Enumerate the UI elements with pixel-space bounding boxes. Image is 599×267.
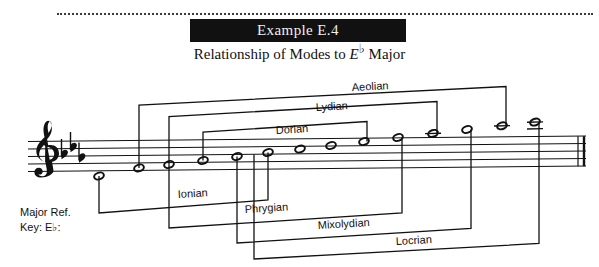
bracket-phrygian <box>169 138 402 229</box>
flat-icon-2 <box>71 132 77 152</box>
note-head <box>425 129 441 138</box>
flat-icon-3 <box>79 143 85 163</box>
mode-label-dorian: Dorian <box>275 122 308 136</box>
example-figure: Example E.4 Relationship of Modes to E♭ … <box>0 0 599 267</box>
mode-label-mixolydian: Mixolydian <box>317 216 370 231</box>
lower-mode-labels: Ionian Phrygian Mixolydian Locrian <box>177 186 432 247</box>
note-head <box>527 117 543 129</box>
upper-mode-labels: Dorian Lydian Aeolian <box>275 79 388 136</box>
key-signature-three-flats <box>62 132 86 163</box>
mode-label-locrian: Locrian <box>395 233 432 247</box>
mode-label-ionian: Ionian <box>177 186 208 200</box>
mode-label-lydian: Lydian <box>315 99 348 113</box>
note-sequence <box>93 117 543 180</box>
music-staff <box>28 136 586 172</box>
note-head <box>494 121 510 130</box>
mode-label-phrygian: Phrygian <box>244 200 288 215</box>
note-head <box>294 144 306 153</box>
lower-mode-brackets <box>99 122 539 259</box>
upper-mode-brackets <box>139 87 506 169</box>
treble-clef-icon <box>34 121 59 178</box>
bracket-aeolian <box>139 87 506 169</box>
notation-and-bracket-artwork: Dorian Lydian Aeolian Ioni <box>0 0 599 267</box>
mode-label-aeolian: Aeolian <box>351 79 388 93</box>
